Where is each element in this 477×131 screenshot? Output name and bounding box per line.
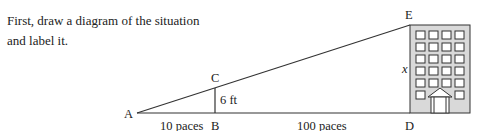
label-BD: 100 paces	[297, 119, 347, 131]
segment-AE	[137, 25, 410, 113]
point-label-C: C	[211, 71, 219, 85]
point-label-D: D	[405, 119, 414, 131]
label-DE: x	[401, 62, 408, 76]
building-icon	[410, 25, 470, 113]
label-BC: 6 ft	[220, 93, 238, 107]
point-label-B: B	[211, 119, 219, 131]
point-label-A: A	[124, 107, 133, 121]
similar-triangles-diagram: A B C D E 10 paces 100 paces 6 ft x	[0, 0, 477, 131]
label-AB: 10 paces	[160, 119, 204, 131]
point-label-E: E	[405, 8, 413, 22]
